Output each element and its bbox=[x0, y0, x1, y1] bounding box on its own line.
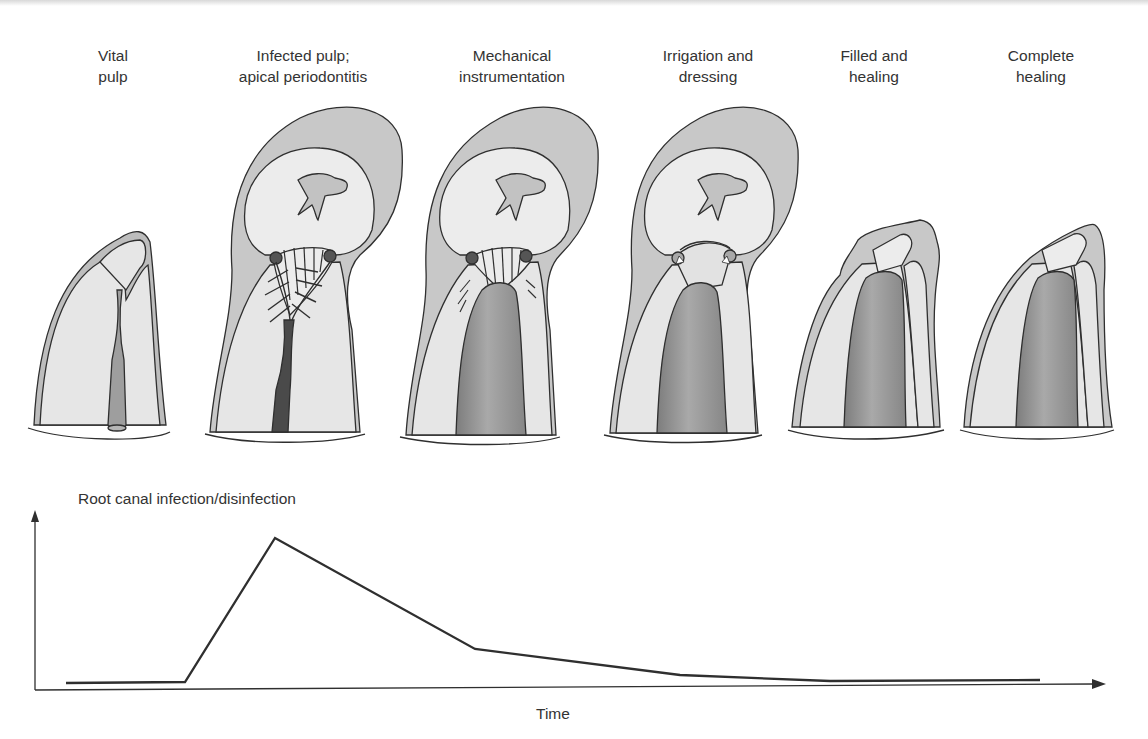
tooth-complete-healing bbox=[960, 225, 1114, 439]
tooth-illustrations bbox=[0, 0, 1148, 739]
tooth-filled-healing bbox=[788, 220, 944, 439]
tooth-infected-pulp bbox=[205, 107, 402, 442]
tooth-vital-pulp bbox=[28, 232, 170, 439]
infection-timeline-chart bbox=[31, 510, 1106, 690]
x-axis bbox=[35, 684, 1094, 690]
chart-y-axis-title: Root canal infection/disinfection bbox=[78, 490, 296, 508]
chart-x-axis-label: Time bbox=[536, 705, 570, 723]
tooth-irrigation-dressing bbox=[604, 107, 798, 442]
x-axis-arrow-icon bbox=[1092, 679, 1106, 689]
tooth-mechanical-instrumentation bbox=[400, 107, 598, 444]
y-axis-arrow-icon bbox=[31, 510, 39, 522]
infection-level-line bbox=[66, 538, 1040, 683]
